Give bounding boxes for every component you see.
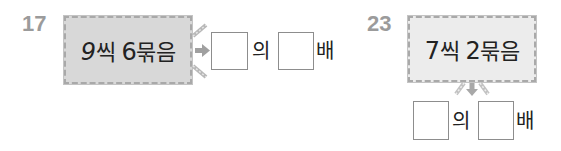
problem-17-card: 9씩 6묶음: [63, 15, 193, 85]
card-groups: 6: [122, 38, 137, 66]
card-unit: 씩: [440, 39, 466, 64]
right-arrow-icon: [190, 20, 212, 82]
suffix-label: 배: [316, 41, 334, 61]
card-group-unit: 묶음: [480, 39, 519, 64]
problem-number-17: 17: [22, 13, 46, 35]
connector-label: 의: [252, 41, 270, 61]
answer-box-17-first[interactable]: [211, 32, 248, 70]
card-unit: 씩: [96, 40, 122, 65]
answer-box-23-second[interactable]: [478, 101, 514, 140]
answer-box-23-first[interactable]: [413, 101, 449, 140]
answer-box-17-second[interactable]: [278, 32, 314, 70]
connector-label: 의: [452, 111, 470, 131]
problem-23-card: 7씩 2묶음: [407, 15, 537, 83]
card-count: 7: [425, 37, 440, 65]
card-groups: 2: [466, 37, 481, 65]
card-group-unit: 묶음: [136, 40, 175, 65]
problem-17-card-text: 9씩 6묶음: [81, 34, 176, 66]
suffix-label: 배: [516, 111, 534, 131]
down-arrow-icon: [450, 80, 494, 100]
card-count: 9: [81, 38, 96, 66]
problem-23-card-text: 7씩 2묶음: [425, 33, 520, 65]
problem-number-23: 23: [367, 13, 391, 35]
